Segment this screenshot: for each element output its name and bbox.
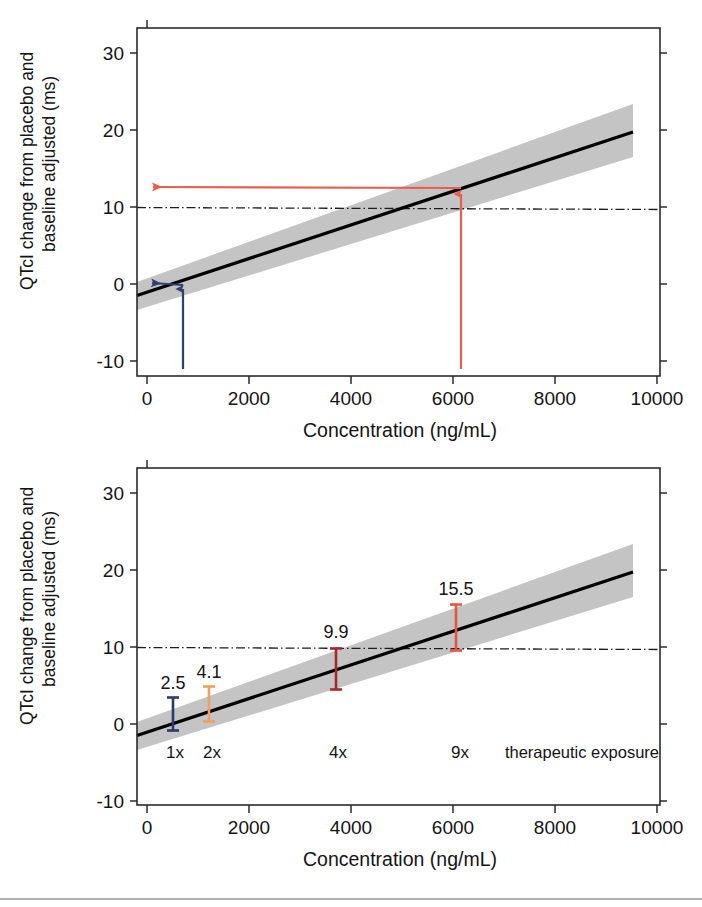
y-tick-label-neg10: -10: [97, 351, 124, 372]
x-tick-label-2000-bottom: 2000: [228, 817, 270, 838]
x-tick-label-6000: 6000: [432, 388, 474, 409]
y-axis-title-bottom: QTcI change from placebo and baseline ad…: [17, 487, 59, 725]
panel-bottom-svg: QTcI change from placebo and baseline ad…: [0, 440, 702, 907]
x-tick-label-4000: 4000: [330, 388, 372, 409]
dose-label-4x: 4x: [329, 743, 347, 762]
y-axis-title-line2-bottom: baseline adjusted (ms): [39, 511, 59, 687]
x-tick-label-8000: 8000: [534, 388, 576, 409]
error-bar-label-2x: 4.1: [196, 662, 221, 682]
y-tick-label-neg10-bottom: -10: [97, 791, 124, 812]
x-tick-label-6000-bottom: 6000: [432, 817, 474, 838]
y-tick-label-0-bottom: 0: [113, 714, 124, 735]
qt-concentration-figure: QTcI change from placebo and baseline ad…: [0, 0, 702, 907]
y-tick-label-30-bottom: 30: [103, 483, 124, 504]
x-axis-title-bottom: Concentration (ng/mL): [303, 848, 497, 870]
dose-label-9x: 9x: [451, 743, 469, 762]
confidence-band-polygon: [137, 104, 633, 310]
x-tick-label-0-bottom: 0: [142, 817, 153, 838]
x-tick-label-10000-bottom: 10000: [631, 817, 684, 838]
x-tick-label-10000: 10000: [631, 388, 684, 409]
y-axis-title-line1-bottom: QTcI change from placebo and: [17, 487, 37, 725]
x-axis-title-top: Concentration (ng/mL): [303, 419, 497, 441]
x-tick-label-0: 0: [142, 388, 153, 409]
error-bar-label-4x: 9.9: [323, 622, 348, 642]
confidence-band-polygon-bottom: [137, 544, 633, 750]
therapeutic-exposure-note: therapeutic exposure: [505, 743, 659, 761]
regression-line-bottom: [137, 572, 633, 736]
y-tick-label-0: 0: [113, 274, 124, 295]
error-bar-label-9x: 15.5: [438, 579, 473, 599]
y-tick-label-20: 20: [103, 120, 124, 141]
x-tick-label-8000-bottom: 8000: [534, 817, 576, 838]
panel-top: QTcI change from placebo and baseline ad…: [0, 0, 702, 453]
dose-label-1x: 1x: [166, 743, 184, 762]
page-bottom-rule: [0, 898, 702, 900]
y-axis-title-top: QTcI change from placebo and baseline ad…: [17, 52, 59, 290]
red-horizontal-arrow: [153, 187, 461, 188]
panel-top-svg: QTcI change from placebo and baseline ad…: [0, 0, 702, 453]
confidence-band-bottom: [137, 544, 633, 750]
y-tick-label-10: 10: [103, 197, 124, 218]
y-axis-title-line2: baseline adjusted (ms): [39, 76, 59, 252]
x-tick-label-4000-bottom: 4000: [330, 817, 372, 838]
confidence-band-top: [137, 104, 633, 310]
y-tick-label-30: 30: [103, 43, 124, 64]
dose-label-2x: 2x: [203, 743, 221, 762]
error-bar-label-1x: 2.5: [160, 673, 185, 693]
y-tick-label-20-bottom: 20: [103, 560, 124, 581]
error-bar-4x: 9.9 4x: [323, 622, 348, 762]
x-tick-label-2000: 2000: [228, 388, 270, 409]
regression-line-top: [137, 132, 633, 296]
panel-bottom: QTcI change from placebo and baseline ad…: [0, 440, 702, 907]
y-tick-label-10-bottom: 10: [103, 637, 124, 658]
y-axis-title-line1: QTcI change from placebo and: [17, 52, 37, 290]
